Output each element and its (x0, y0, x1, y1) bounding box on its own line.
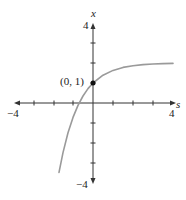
s-min-label: −4 (7, 107, 19, 119)
x-axis-label: x (90, 7, 96, 19)
point-marker (91, 81, 96, 86)
y-max-label: 4 (83, 19, 89, 31)
y-min-label: −4 (76, 178, 88, 190)
point-label: (0, 1) (60, 75, 84, 88)
s-axis-label: s (176, 98, 180, 110)
plot: x 4 −4 s −4 4 (0, 1) (0, 0, 186, 200)
s-axis-left-arrow-icon (14, 101, 20, 106)
s-max-label: 4 (169, 107, 175, 119)
x-axis-up-arrow-icon (91, 23, 96, 29)
x-axis-down-arrow-icon (91, 178, 96, 184)
